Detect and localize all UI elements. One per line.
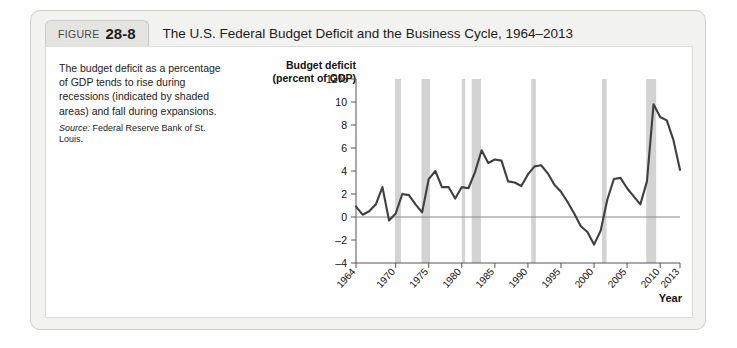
figure-tab: FIGURE 28-8 — [45, 20, 149, 47]
plot-background — [356, 79, 680, 263]
x-tick-label: 1980 — [440, 266, 463, 290]
y-tick-label: 0 — [341, 211, 347, 223]
x-tick-label: 2000 — [572, 266, 595, 290]
x-tick-label: 2005 — [606, 266, 629, 290]
x-tick-label: 2010 — [639, 266, 662, 290]
y-tick-label: 6 — [341, 142, 347, 154]
y-axis-ticks: 12%1086420–2–4 — [326, 73, 356, 269]
recession-band — [462, 79, 465, 263]
x-axis-title: Year — [659, 292, 682, 304]
x-tick-label: 2013 — [658, 266, 681, 290]
x-tick-label: 1970 — [374, 266, 397, 290]
y-tick-label: 2 — [341, 188, 347, 200]
recession-band — [395, 79, 401, 263]
x-tick-label: 1985 — [473, 266, 496, 290]
caption-block: The budget deficit as a percentage of GD… — [59, 61, 227, 146]
caption-source: Source: Federal Reserve Bank of St. Loui… — [59, 123, 227, 146]
figure-label: FIGURE — [58, 28, 99, 40]
figure-card: FIGURE 28-8 The U.S. Federal Budget Defi… — [30, 10, 706, 330]
y-tick-label: –4 — [335, 257, 347, 269]
x-axis-ticks: 1964197019751980198519901995200020052010… — [334, 263, 681, 290]
y-tick-label: –2 — [335, 234, 347, 246]
recession-band — [421, 79, 430, 263]
y-tick-label: 12% — [326, 73, 347, 85]
x-tick-label: 1975 — [407, 266, 430, 290]
chart-area: Budget deficit (percent of GDP) 12%10864… — [234, 51, 686, 315]
x-tick-label: 1964 — [334, 266, 357, 290]
recession-band — [602, 79, 607, 263]
figure-title: The U.S. Federal Budget Deficit and the … — [163, 26, 574, 41]
x-tick-label: 1990 — [506, 266, 529, 290]
caption-body: The budget deficit as a percentage of GD… — [59, 61, 227, 118]
x-tick-label: 1995 — [539, 266, 562, 290]
figure-panel: The budget deficit as a percentage of GD… — [45, 46, 693, 318]
figure-header: FIGURE 28-8 The U.S. Federal Budget Defi… — [45, 19, 573, 47]
budget-deficit-line-chart: 12%1086420–2–419641970197519801985199019… — [234, 51, 686, 315]
source-label: Source: — [59, 123, 90, 133]
y-tick-label: 8 — [341, 119, 347, 131]
y-tick-label: 10 — [335, 96, 347, 108]
y-tick-label: 4 — [341, 165, 347, 177]
figure-number: 28-8 — [105, 25, 135, 42]
